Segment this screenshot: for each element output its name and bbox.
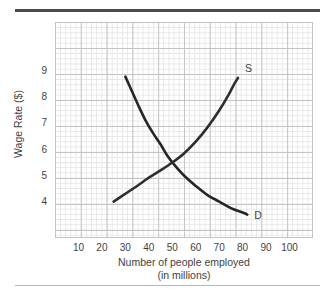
demand-curve bbox=[125, 77, 247, 215]
x-axis-title-main: Number of people employed bbox=[55, 256, 313, 269]
y-tick-label: 6 bbox=[33, 144, 47, 155]
x-tick-label: 30 bbox=[114, 242, 136, 253]
x-axis-title-sub: (in millions) bbox=[55, 269, 313, 282]
chart-page: 456789 102030405060708090100 DS Wage Rat… bbox=[0, 0, 335, 304]
y-tick-label: 8 bbox=[33, 91, 47, 102]
x-tick-label: 90 bbox=[255, 242, 277, 253]
y-tick-label: 4 bbox=[33, 196, 47, 207]
curve-label-d: D bbox=[254, 209, 262, 221]
y-tick-label: 5 bbox=[33, 170, 47, 181]
supply-demand-chart: 456789 102030405060708090100 DS Wage Rat… bbox=[0, 0, 335, 304]
x-tick-label: 80 bbox=[232, 242, 254, 253]
y-tick-label: 9 bbox=[33, 65, 47, 76]
x-tick-label: 60 bbox=[185, 242, 207, 253]
x-tick-label: 70 bbox=[208, 242, 230, 253]
curve-label-s: S bbox=[245, 62, 252, 74]
x-tick-label: 100 bbox=[279, 242, 301, 253]
x-tick-label: 50 bbox=[161, 242, 183, 253]
y-tick-label: 7 bbox=[33, 117, 47, 128]
y-axis-title: Wage Rate ($) bbox=[12, 74, 24, 174]
x-axis-title: Number of people employed (in millions) bbox=[55, 256, 313, 282]
x-tick-label: 20 bbox=[91, 242, 113, 253]
x-tick-label: 40 bbox=[138, 242, 160, 253]
x-tick-label: 10 bbox=[67, 242, 89, 253]
supply-curve bbox=[114, 78, 238, 202]
